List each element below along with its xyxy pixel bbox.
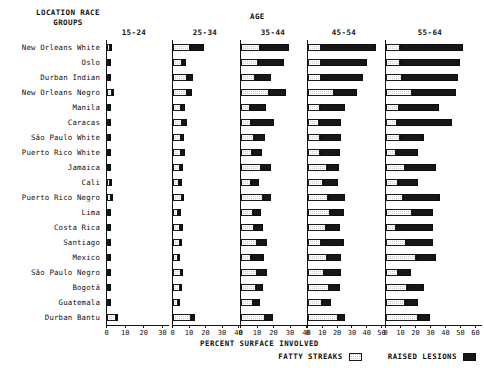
bar-segment-fatty-streaks <box>386 269 398 276</box>
x-axis-tick <box>430 325 431 328</box>
bar-segment-fatty-streaks <box>386 284 407 291</box>
bar-segment-raised-lesions <box>320 149 340 156</box>
bar-row <box>385 160 484 175</box>
bar-segment-fatty-streaks <box>308 119 319 126</box>
bar-segment-fatty-streaks <box>173 164 180 171</box>
bar-segment-fatty-streaks <box>241 164 261 171</box>
chart-figure: LOCATION RACE GROUPS AGE New Orleans Whi… <box>0 0 484 368</box>
bar-segment-fatty-streaks <box>308 149 320 156</box>
x-axis-tick-label: 20 <box>267 329 281 337</box>
bar-segment-raised-lesions <box>412 89 456 96</box>
bar-segment-raised-lesions <box>405 164 436 171</box>
bar-row <box>307 265 395 280</box>
x-axis-line <box>307 325 388 326</box>
bar-segment-raised-lesions <box>263 194 270 201</box>
bar-segment-raised-lesions <box>181 134 184 141</box>
panel-title: 55-64 <box>385 28 475 37</box>
bar-segment-raised-lesions <box>109 164 111 171</box>
bar-segment-raised-lesions <box>182 119 187 126</box>
category-label: Jamaica <box>0 160 104 175</box>
bar-row <box>307 130 395 145</box>
bar-segment-raised-lesions <box>251 254 264 261</box>
bar-row <box>106 145 176 160</box>
bar-segment-raised-lesions <box>328 194 345 201</box>
bar-segment-raised-lesions <box>405 299 418 306</box>
bar-row <box>106 220 176 235</box>
bar-segment-raised-lesions <box>253 209 261 216</box>
bar-segment-raised-lesions <box>261 164 271 171</box>
x-axis-tick <box>385 325 386 328</box>
bar-segment-raised-lesions <box>412 209 434 216</box>
x-axis-tick <box>106 325 107 328</box>
bar-segment-raised-lesions <box>109 254 111 261</box>
plot-area: 0102030 <box>106 40 178 339</box>
bar-row <box>307 85 395 100</box>
bar-segment-raised-lesions <box>256 284 263 291</box>
bar-row <box>385 145 484 160</box>
bar-row <box>106 235 176 250</box>
x-axis-tick-label: 20 <box>199 329 213 337</box>
bar-segment-raised-lesions <box>109 209 111 216</box>
x-axis-tick <box>445 325 446 328</box>
bar-segment-raised-lesions <box>260 44 289 51</box>
bar-segment-fatty-streaks <box>107 314 116 321</box>
bar-segment-raised-lesions <box>321 59 367 66</box>
bar-segment-fatty-streaks <box>241 284 256 291</box>
bar-segment-raised-lesions <box>254 224 263 231</box>
bar-row <box>385 235 484 250</box>
bar-segment-fatty-streaks <box>241 104 250 111</box>
bar-segment-fatty-streaks <box>241 179 251 186</box>
bar-segment-raised-lesions <box>187 89 192 96</box>
bar-segment-raised-lesions <box>109 134 111 141</box>
panel-title: 35-44 <box>240 28 306 37</box>
row-axis-title: LOCATION RACE GROUPS <box>22 8 114 28</box>
bar-row <box>385 220 484 235</box>
x-axis-tick <box>257 325 258 328</box>
bar-segment-raised-lesions <box>180 239 182 246</box>
bar-segment-raised-lesions <box>182 194 184 201</box>
category-label: Cali <box>0 175 104 190</box>
bar-row <box>385 250 484 265</box>
x-axis-tick <box>162 325 163 328</box>
category-label: Durban Indian <box>0 70 104 85</box>
x-axis-tick <box>460 325 461 328</box>
bar-segment-fatty-streaks <box>173 44 190 51</box>
bar-segment-raised-lesions <box>416 254 436 261</box>
bar-segment-fatty-streaks <box>386 119 397 126</box>
x-axis-tick-label: 10 <box>118 329 132 337</box>
bar-segment-fatty-streaks <box>386 59 400 66</box>
bar-row <box>385 115 484 130</box>
bar-segment-fatty-streaks <box>241 314 265 321</box>
bar-segment-fatty-streaks <box>308 224 326 231</box>
x-axis-tick-label: 10 <box>182 329 196 337</box>
x-axis-tick-label: 0 <box>100 329 114 337</box>
x-axis-tick <box>307 325 308 328</box>
bar-segment-fatty-streaks <box>386 239 406 246</box>
bar-segment-fatty-streaks <box>173 119 182 126</box>
bar-segment-fatty-streaks <box>173 284 180 291</box>
bar-row <box>385 280 484 295</box>
bar-segment-raised-lesions <box>265 314 273 321</box>
x-axis-tick <box>400 325 401 328</box>
bar-row <box>307 55 395 70</box>
x-axis-tick-label: 50 <box>454 329 468 337</box>
bar-row <box>307 160 395 175</box>
bar-segment-raised-lesions <box>407 284 424 291</box>
x-axis-tick-label: 20 <box>409 329 423 337</box>
bar-segment-fatty-streaks <box>173 59 182 66</box>
x-axis-tick <box>189 325 190 328</box>
bar-segment-fatty-streaks <box>308 104 320 111</box>
category-label: Oslo <box>0 55 104 70</box>
bar-segment-raised-lesions <box>178 254 180 261</box>
bar-row <box>385 205 484 220</box>
bar-segment-raised-lesions <box>399 104 440 111</box>
bar-segment-fatty-streaks <box>308 254 327 261</box>
bar-row <box>106 280 176 295</box>
x-axis-tick <box>240 325 241 328</box>
bar-row <box>307 280 395 295</box>
bar-segment-raised-lesions <box>400 59 459 66</box>
bar-segment-raised-lesions <box>330 209 344 216</box>
bar-row <box>106 40 176 55</box>
bar-segment-fatty-streaks <box>386 164 405 171</box>
bar-row <box>106 70 176 85</box>
